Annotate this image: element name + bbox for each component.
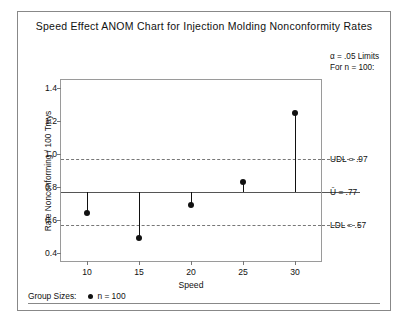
x-tick-label: 10 (82, 267, 92, 277)
alpha-limits-line-1: α = .05 Limits (330, 52, 379, 63)
x-tick-mark (295, 261, 296, 265)
x-tick-label: 15 (134, 267, 144, 277)
y-axis-title: Rate Nonconforming / 100 Trays (43, 110, 53, 231)
limit-label-center: Ū = .77 (330, 187, 357, 197)
y-tick-mark (57, 154, 61, 155)
x-tick-label: 25 (238, 267, 248, 277)
reference-line-ldl (61, 225, 321, 226)
group-size-value: n = 100 (97, 291, 125, 301)
y-tick-label: 1.4 (45, 83, 57, 93)
limit-label-ldl: LDL = .57 (330, 220, 366, 230)
x-tick-mark (191, 261, 192, 265)
x-tick-mark (243, 261, 244, 265)
x-axis-title: Speed (179, 280, 204, 290)
y-tick-label: 1.2 (45, 116, 57, 126)
data-point[interactable] (84, 210, 90, 216)
y-tick-mark (57, 88, 61, 89)
plot-area: Rate Nonconforming / 100 Trays Speed 1.4… (60, 79, 322, 262)
x-tick-label: 20 (186, 267, 196, 277)
data-point[interactable] (240, 179, 246, 185)
legend-divider (28, 303, 380, 304)
y-tick-label: 0.8 (45, 182, 57, 192)
chart-title: Speed Effect ANOM Chart for Injection Mo… (17, 20, 391, 32)
reference-line-udl (61, 159, 321, 160)
y-tick-mark (57, 253, 61, 254)
y-tick-label: 1.0 (45, 149, 57, 159)
data-point[interactable] (188, 202, 194, 208)
anom-chart-figure: Speed Effect ANOM Chart for Injection Mo… (0, 0, 409, 326)
data-stem (139, 192, 140, 238)
group-sizes-label: Group Sizes: (28, 291, 76, 301)
y-tick-mark (57, 187, 61, 188)
data-stem (295, 113, 296, 192)
y-tick-label: 0.4 (45, 248, 57, 258)
data-point[interactable] (292, 110, 298, 116)
x-tick-mark (139, 261, 140, 265)
legend-point-icon (88, 294, 93, 299)
group-sizes-legend: Group Sizes: n = 100 (28, 291, 126, 301)
y-tick-mark (57, 121, 61, 122)
y-tick-mark (57, 220, 61, 221)
alpha-limits-note: α = .05 Limits For n = 100: (330, 52, 379, 73)
x-tick-mark (87, 261, 88, 265)
y-tick-label: 0.6 (45, 215, 57, 225)
plot-inner: Rate Nonconforming / 100 Trays Speed 1.4… (61, 80, 321, 261)
data-point[interactable] (136, 235, 142, 241)
alpha-limits-line-2: For n = 100: (330, 63, 379, 74)
limit-label-udl: UDL = .97 (330, 154, 368, 164)
x-tick-label: 30 (290, 267, 300, 277)
